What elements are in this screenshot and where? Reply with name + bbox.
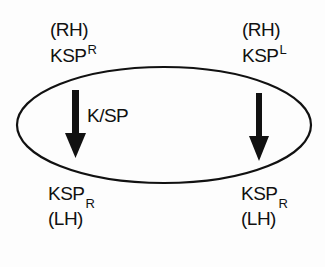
top-right-ksp-base: KSP [242,45,279,66]
top-left-ksp-base: KSP [50,45,87,66]
arrow-label: K/SP [87,106,128,126]
ellipse-boundary [17,67,311,183]
top-right-ksp-label: KSPL [242,46,286,68]
bottom-right-ksp-label: KSPR [241,184,287,206]
top-left-ksp-superscript: R [88,42,97,57]
top-left-handedness-label: (RH) [50,20,88,40]
bottom-right-handedness-label: (LH) [241,209,276,229]
bottom-left-handedness-label: (LH) [48,209,83,229]
bottom-right-ksp-base: KSP [241,183,278,204]
top-right-handedness-label: (RH) [242,20,280,40]
bottom-left-ksp-base: KSP [48,183,85,204]
top-right-ksp-superscript: L [280,42,287,57]
top-left-ksp-label: KSPR [50,46,96,68]
left-down-arrow-icon [65,90,86,158]
right-down-arrow-icon [249,93,269,161]
bottom-left-ksp-label: KSPR [48,184,94,206]
bottom-left-ksp-subscript: R [86,196,95,211]
bottom-right-ksp-subscript: R [279,196,288,211]
